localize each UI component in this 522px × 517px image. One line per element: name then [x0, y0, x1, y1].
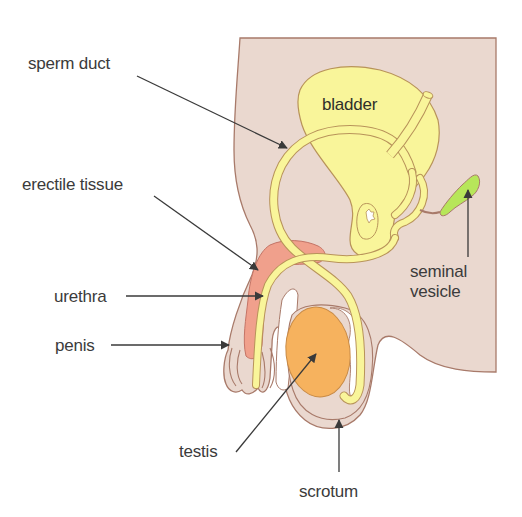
anatomy-diagram: sperm duct erectile tissue urethra penis…: [0, 0, 522, 517]
label-sperm-duct: sperm duct: [28, 55, 110, 72]
label-erectile-tissue: erectile tissue: [22, 176, 123, 193]
label-seminal-vesicle-line1: seminal: [410, 262, 467, 282]
label-penis: penis: [55, 337, 95, 354]
anatomy-illustration: [0, 0, 522, 517]
prostate-gland: [357, 203, 378, 239]
label-scrotum: scrotum: [299, 483, 358, 500]
label-bladder: bladder: [322, 96, 377, 113]
label-seminal-vesicle-line2: vesicle: [410, 282, 467, 302]
label-urethra: urethra: [54, 288, 106, 305]
label-testis: testis: [179, 443, 217, 460]
label-seminal-vesicle: seminal vesicle: [410, 262, 467, 302]
